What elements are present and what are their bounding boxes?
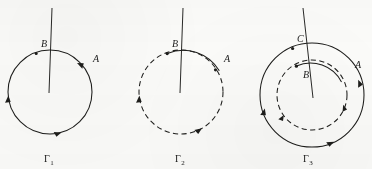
point-marker-a-2 <box>214 68 217 71</box>
outer-circle-gamma-3 <box>260 43 364 147</box>
label-a-panel-1: A <box>92 53 100 64</box>
caption-gamma-2: Γ2 <box>175 153 185 167</box>
point-marker-b-2 <box>166 52 169 55</box>
point-marker-b-3 <box>295 65 298 68</box>
panel-gamma-1: B A Γ1 <box>5 8 100 167</box>
diagram-svg: B A Γ1 B A Γ2 <box>0 0 372 169</box>
label-a-panel-3: A <box>354 59 362 70</box>
label-a-panel-2: A <box>223 53 231 64</box>
arrowhead-3e <box>341 104 347 112</box>
arrowhead-2b <box>194 126 203 135</box>
radial-line-3 <box>303 8 313 98</box>
arrowhead-3d <box>278 114 286 122</box>
arrowhead-3b <box>326 139 335 147</box>
caption-gamma-1: Γ1 <box>44 153 54 167</box>
arrowhead-2a <box>136 95 142 103</box>
label-b-panel-3: B <box>303 69 309 80</box>
panel-gamma-2: B A Γ2 <box>136 8 231 167</box>
inner-circle-gamma-3 <box>277 60 347 130</box>
label-b-panel-2: B <box>172 38 178 49</box>
figure-canvas: B A Γ1 B A Γ2 <box>0 0 372 169</box>
solid-arc-gamma-2 <box>167 50 219 70</box>
label-c-panel-3: C <box>297 33 304 44</box>
arrowhead-1b <box>5 95 11 103</box>
point-marker-c-3 <box>291 47 294 50</box>
caption-gamma-3: Γ3 <box>303 153 313 167</box>
panel-gamma-3: C B A Γ3 <box>260 8 364 167</box>
label-b-panel-1: B <box>41 38 47 49</box>
point-marker-b-1 <box>35 52 38 55</box>
arrowhead-1c <box>54 130 63 137</box>
